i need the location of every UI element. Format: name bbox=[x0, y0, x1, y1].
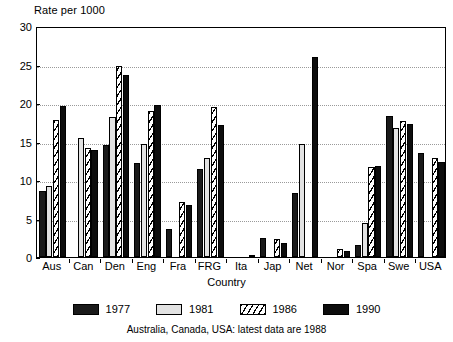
y-tick-label: 10 bbox=[2, 175, 32, 187]
x-tick-label-net: Net bbox=[296, 260, 313, 272]
x-tick-label-ita: Ita bbox=[235, 260, 247, 272]
bar-group bbox=[195, 28, 227, 257]
bar-swe-1977 bbox=[386, 116, 392, 257]
bar-group bbox=[352, 28, 384, 257]
bar-den-1981 bbox=[109, 117, 115, 257]
bar-nor-1990 bbox=[344, 251, 350, 257]
legend-label-1981: 1981 bbox=[189, 303, 213, 315]
bar-group-bars bbox=[100, 28, 132, 257]
bar-group-bars bbox=[384, 28, 416, 257]
x-tick-label-fra: Fra bbox=[170, 260, 187, 272]
bar-aus-1986 bbox=[53, 120, 59, 257]
bar-group-bars bbox=[415, 28, 447, 257]
x-tick-label-aus: Aus bbox=[42, 260, 61, 272]
bar-fra-1977 bbox=[166, 229, 172, 257]
x-tick-label-eng: Eng bbox=[137, 260, 157, 272]
bar-frg-1977 bbox=[197, 169, 203, 257]
bar-usa-1977 bbox=[418, 153, 424, 257]
y-tick-mark bbox=[36, 181, 40, 182]
bar-group-bars bbox=[163, 28, 195, 257]
bar-swe-1986 bbox=[400, 121, 406, 257]
x-tick-label-jap: Jap bbox=[264, 260, 282, 272]
x-tick-label-nor: Nor bbox=[327, 260, 345, 272]
legend-swatch-1986 bbox=[240, 304, 266, 315]
y-tick-label: 0 bbox=[2, 252, 32, 264]
bar-den-1986 bbox=[116, 66, 122, 257]
bar-group bbox=[100, 28, 132, 257]
bar-aus-1977 bbox=[39, 191, 45, 257]
y-tick-mark bbox=[36, 66, 40, 67]
bar-can-1990 bbox=[91, 150, 97, 257]
bar-group-bars bbox=[132, 28, 164, 257]
bar-group-bars bbox=[195, 28, 227, 257]
y-tick-label: 20 bbox=[2, 98, 32, 110]
bar-spa-1981 bbox=[362, 223, 368, 257]
bar-group bbox=[226, 28, 258, 257]
chart-figure: Rate per 1000 051015202530 AusCanDenEngF… bbox=[0, 0, 453, 342]
legend-item-1977: 1977 bbox=[73, 303, 130, 315]
bar-fra-1990 bbox=[186, 205, 192, 257]
bar-group bbox=[384, 28, 416, 257]
bar-fra-1986 bbox=[179, 202, 185, 257]
bar-eng-1977 bbox=[134, 163, 140, 257]
chart-footnote: Australia, Canada, USA: latest data are … bbox=[0, 324, 453, 335]
bar-group-bars bbox=[321, 28, 353, 257]
x-axis-title: Country bbox=[0, 276, 453, 288]
bar-group bbox=[163, 28, 195, 257]
bar-aus-1990 bbox=[60, 106, 66, 257]
bar-eng-1981 bbox=[141, 144, 147, 257]
bar-usa-1986 bbox=[432, 158, 438, 257]
bar-net-1977 bbox=[292, 193, 298, 257]
plot-inner bbox=[37, 28, 445, 257]
bar-jap-1977 bbox=[260, 238, 266, 257]
x-tick-label-usa: USA bbox=[419, 260, 442, 272]
bar-usa-1990 bbox=[438, 162, 444, 257]
bar-eng-1990 bbox=[154, 105, 160, 257]
y-tick-mark bbox=[36, 258, 40, 259]
y-tick-label: 15 bbox=[2, 137, 32, 149]
bar-group-bars bbox=[69, 28, 101, 257]
y-tick-mark bbox=[36, 220, 40, 221]
chart-legend: 1977198119861990 bbox=[0, 303, 453, 315]
x-tick-label-frg: FRG bbox=[198, 260, 221, 272]
bar-aus-1981 bbox=[46, 186, 52, 257]
bar-group bbox=[321, 28, 353, 257]
bar-jap-1990 bbox=[281, 243, 287, 257]
bar-den-1990 bbox=[123, 75, 129, 257]
bar-group bbox=[415, 28, 447, 257]
legend-item-1981: 1981 bbox=[156, 303, 213, 315]
y-tick-mark bbox=[36, 27, 40, 28]
x-tick-label-spa: Spa bbox=[357, 260, 377, 272]
y-tick-mark bbox=[36, 143, 40, 144]
y-tick-label: 25 bbox=[2, 60, 32, 72]
bar-group-bars bbox=[226, 28, 258, 257]
legend-swatch-1981 bbox=[156, 304, 182, 315]
bar-spa-1977 bbox=[355, 245, 361, 257]
bar-net-1981 bbox=[299, 144, 305, 257]
bar-group-bars bbox=[352, 28, 384, 257]
bar-can-1986 bbox=[85, 148, 91, 257]
bar-can-1981 bbox=[78, 138, 84, 257]
legend-label-1990: 1990 bbox=[356, 303, 380, 315]
bar-group-bars bbox=[258, 28, 290, 257]
bar-spa-1990 bbox=[375, 166, 381, 257]
x-tick-label-swe: Swe bbox=[388, 260, 409, 272]
legend-swatch-1977 bbox=[73, 304, 99, 315]
bar-nor-1986 bbox=[337, 249, 343, 257]
bar-group bbox=[37, 28, 69, 257]
legend-item-1986: 1986 bbox=[240, 303, 297, 315]
bar-jap-1986 bbox=[274, 239, 280, 257]
bar-group bbox=[69, 28, 101, 257]
plot-area bbox=[36, 27, 446, 258]
bar-group bbox=[258, 28, 290, 257]
y-tick-label: 5 bbox=[2, 214, 32, 226]
bar-den-1977 bbox=[103, 145, 109, 257]
x-axis-labels: AusCanDenEngFraFRGItaJapNetNorSpaSweUSA bbox=[36, 260, 446, 276]
y-tick-label: 30 bbox=[2, 21, 32, 33]
bar-eng-1986 bbox=[148, 111, 154, 257]
x-tick-label-den: Den bbox=[105, 260, 125, 272]
bar-frg-1981 bbox=[204, 158, 210, 257]
bar-group-bars bbox=[289, 28, 321, 257]
bar-frg-1990 bbox=[218, 125, 224, 257]
legend-label-1977: 1977 bbox=[106, 303, 130, 315]
